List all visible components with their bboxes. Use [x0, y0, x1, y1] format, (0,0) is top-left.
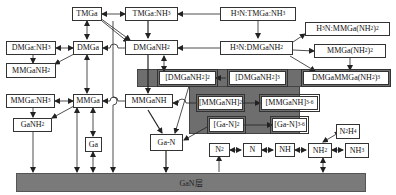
node-n: N [243, 143, 262, 157]
arrow-dmganh2-dmga [103, 44, 126, 48]
node-mmga-nh3: MMGa:NH3 [6, 94, 55, 108]
arrow-dmganh2-2-gan [175, 86, 189, 133]
arrow-h3ndmga-h3nmmga [293, 34, 305, 42]
node-ga: Ga [85, 137, 102, 152]
arrow-dmga-mmganh2 [55, 54, 74, 64]
arrow-gan2-gan [184, 127, 207, 140]
node-mmganh2: MMGaNH2 [6, 63, 56, 78]
arrow-mmga-ganh2 [52, 106, 74, 118]
node-h3n-dmganh2: H3N:DMGaNH2 [220, 41, 293, 55]
arrow-mmganh-gan [148, 110, 162, 133]
node-mmganh: MMGaNH [125, 94, 173, 108]
node-nh: NH [275, 143, 295, 157]
node-n2h4: N2H4 [336, 124, 360, 139]
node-tmga: TMGa [72, 7, 102, 21]
node-tmga-nh3: TMGa:NH3 [125, 7, 178, 21]
node-mmga: MMGa [73, 94, 103, 108]
node-ga-n-oligomer: [Ga-N]3-6 [272, 118, 307, 132]
arrow-mmganh-mmga [103, 97, 125, 101]
node-dmgammga-nh2-3: DMGaMMGa(NH2)3 [303, 71, 389, 85]
arrow-h3ndmga-mmganh22 [293, 50, 314, 51]
node-dmganh2-trimer: [DMGaNH2]3 [229, 71, 286, 85]
node-h3n-tmga-nh3: H3N:TMGa:NH3 [220, 7, 296, 21]
node-nh3: NH3 [345, 143, 369, 158]
arrow-tmga-dmganh2-a [100, 18, 130, 40]
node-n2: N2 [209, 143, 230, 157]
node-ganh2: GaNH2 [13, 118, 52, 132]
node-ga-n: Ga-N [150, 134, 183, 151]
node-dmganh2-dimer: [DMGaNH2]2 [159, 71, 216, 85]
node-mmganh-dimer: [MMGaNH]2 [198, 96, 243, 110]
node-mmganh-oligomer: [MMGaNH]3-6 [261, 96, 318, 110]
node-h3n-mmga-nh2-2: H3N:MMGa(NH2)2 [305, 22, 390, 36]
arrow-h3ndmga-dmgammga [290, 56, 315, 71]
arrow-tmga-dmganh2-b [102, 21, 128, 42]
node-dmga: DMGa [73, 41, 103, 55]
node-ga-n-dimer: [Ga-N]2 [209, 118, 244, 132]
node-nh2: NH2 [308, 143, 332, 158]
node-dmga-nh3: DMGa:NH3 [6, 41, 56, 55]
node-mmga-nh2-2: MMGa(NH2)2 [314, 44, 386, 58]
node-dmganh2: DMGaNH2 [125, 40, 178, 55]
